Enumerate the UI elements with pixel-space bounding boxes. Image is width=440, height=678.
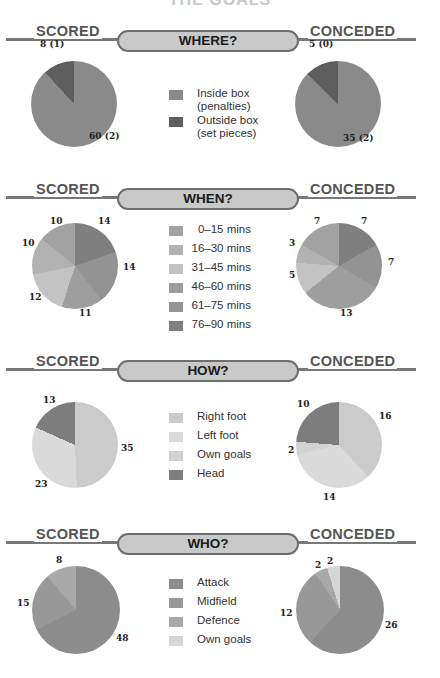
section-header: SCORED CONCEDED WHEN? xyxy=(0,183,440,213)
pie-value-label-conceded: 7 xyxy=(388,257,394,267)
legend-label: Attack xyxy=(197,576,229,589)
conceded-label: CONCEDED xyxy=(308,353,397,369)
legend-label: 76–90 mins xyxy=(191,318,251,331)
scored-label: SCORED xyxy=(34,23,102,39)
legend-label: 46–60 mins xyxy=(191,280,251,293)
legend-label: 61–75 mins xyxy=(191,299,251,312)
legend-label: Own goals xyxy=(197,633,251,646)
legend-label: 16–30 mins xyxy=(191,242,251,255)
section-header: SCORED CONCEDED WHERE? xyxy=(0,25,440,55)
legend-swatch-icon xyxy=(169,432,183,442)
conceded-label: CONCEDED xyxy=(308,23,397,39)
pie-chart-conceded xyxy=(296,402,382,488)
section-header: SCORED CONCEDED WHO? xyxy=(0,528,440,558)
section-how: SCORED CONCEDED HOW?3523131614210Right f… xyxy=(0,355,440,505)
legend-label: Left foot xyxy=(197,429,239,442)
legend-swatch-icon xyxy=(169,283,183,293)
legend-label: 0–15 mins xyxy=(191,223,251,236)
section-header: SCORED CONCEDED HOW? xyxy=(0,355,440,385)
legend-swatch-icon xyxy=(169,321,183,331)
pie-value-label-conceded: 35 (2) xyxy=(343,133,373,143)
pie-value-label-conceded: 2 xyxy=(315,560,321,570)
legend-label: Midfield xyxy=(197,595,237,608)
legend-label: Own goals xyxy=(197,448,251,461)
pie-value-label-conceded: 7 xyxy=(314,216,320,226)
conceded-label: CONCEDED xyxy=(308,526,397,542)
pie-chart-scored xyxy=(32,566,120,654)
legend-swatch-icon xyxy=(169,302,183,312)
legend-swatch-icon xyxy=(169,451,183,461)
pie-value-label-conceded: 13 xyxy=(340,308,353,318)
scored-label: SCORED xyxy=(34,526,102,542)
legend-swatch-icon xyxy=(169,90,183,100)
pie-value-label-scored: 35 xyxy=(121,443,134,453)
conceded-label: CONCEDED xyxy=(308,181,397,197)
section-heading: HOW? xyxy=(117,360,299,382)
scored-label: SCORED xyxy=(34,181,102,197)
pie-value-label-scored: 23 xyxy=(35,479,48,489)
pie-value-label-conceded: 7 xyxy=(361,216,367,226)
pie-value-label-scored: 48 xyxy=(116,633,129,643)
pie-value-label-scored: 60 (2) xyxy=(89,131,119,141)
legend-label: Outside box (set pieces) xyxy=(197,114,258,140)
pie-chart-conceded xyxy=(296,566,384,654)
scored-label: SCORED xyxy=(34,353,102,369)
legend-label: 31–45 mins xyxy=(191,261,251,274)
pie-value-label-conceded: 2 xyxy=(288,445,294,455)
pie-value-label-conceded: 16 xyxy=(379,411,392,421)
section-when: SCORED CONCEDED WHEN?1010121114147351377… xyxy=(0,183,440,333)
legend-label: Defence xyxy=(197,614,240,627)
pie-value-label-conceded: 14 xyxy=(323,492,336,502)
pie-value-label-scored: 12 xyxy=(29,292,42,302)
pie-value-label-scored: 14 xyxy=(98,216,111,226)
legend-swatch-icon xyxy=(169,264,183,274)
legend-label: Inside box (penalties) xyxy=(197,87,251,113)
section-where: SCORED CONCEDED WHERE?60 (2)8 (1)35 (2)5… xyxy=(0,25,440,175)
section-who: SCORED CONCEDED WHO?48158261222AttackMid… xyxy=(0,528,440,678)
pie-value-label-scored: 10 xyxy=(50,216,63,226)
pie-value-label-scored: 8 xyxy=(56,555,62,565)
legend-swatch-icon xyxy=(169,413,183,423)
pie-value-label-conceded: 5 (0) xyxy=(309,39,333,49)
legend-swatch-icon xyxy=(169,470,183,480)
pie-value-label-scored: 8 (1) xyxy=(40,39,64,49)
legend-swatch-icon xyxy=(169,245,183,255)
pie-value-label-conceded: 26 xyxy=(385,620,398,630)
pie-value-label-scored: 10 xyxy=(22,238,35,248)
pie-value-label-scored: 15 xyxy=(17,598,30,608)
legend-label: Right foot xyxy=(197,410,246,423)
section-heading: WHO? xyxy=(117,533,299,555)
pie-value-label-conceded: 12 xyxy=(280,608,293,618)
legend-swatch-icon xyxy=(169,636,183,646)
legend-swatch-icon xyxy=(169,226,183,236)
legend-label: Head xyxy=(197,467,225,480)
pie-value-label-conceded: 2 xyxy=(327,556,333,566)
pie-chart-scored xyxy=(32,223,118,309)
pie-chart-scored xyxy=(32,402,118,488)
legend-swatch-icon xyxy=(169,117,183,127)
pie-value-label-conceded: 10 xyxy=(297,399,310,409)
pie-value-label-conceded: 3 xyxy=(289,238,295,248)
section-heading: WHEN? xyxy=(117,188,299,210)
pie-value-label-scored: 11 xyxy=(79,308,92,318)
pie-value-label-scored: 13 xyxy=(43,395,56,405)
legend-swatch-icon xyxy=(169,579,183,589)
pie-value-label-conceded: 5 xyxy=(289,270,295,280)
page-title: THE GOALS xyxy=(0,0,440,9)
legend-swatch-icon xyxy=(169,598,183,608)
pie-value-label-scored: 14 xyxy=(123,262,136,272)
pie-chart-conceded xyxy=(296,223,382,309)
legend-swatch-icon xyxy=(169,617,183,627)
section-heading: WHERE? xyxy=(117,30,299,52)
